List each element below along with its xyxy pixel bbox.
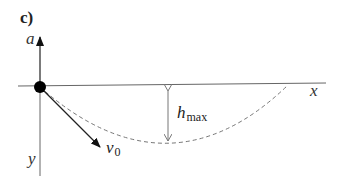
panel-label: c) (20, 8, 33, 27)
acceleration-axis-label: a (26, 29, 35, 48)
x-axis-line (18, 83, 326, 86)
projectile-dot (34, 81, 46, 93)
initial-velocity-label: v0 (106, 138, 121, 159)
initial-velocity-arrow (40, 87, 100, 147)
x-axis-label: x (309, 81, 318, 100)
initial-velocity-subscript: 0 (115, 145, 121, 159)
max-height-label: hmax (177, 103, 207, 124)
trajectory-curve (40, 86, 287, 143)
max-height-symbol: h (177, 103, 186, 122)
projectile-diagram: c) a y x hmax v0 (0, 0, 342, 187)
y-axis-label: y (26, 149, 36, 168)
initial-velocity-symbol: v (106, 138, 114, 157)
max-height-subscript: max (187, 110, 208, 124)
